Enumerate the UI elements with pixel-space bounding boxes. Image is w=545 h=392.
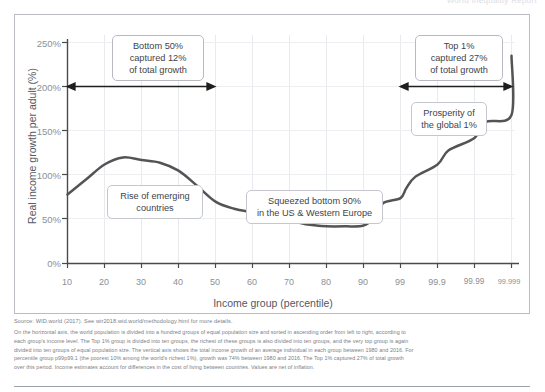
note-line-2: each group's income level. The Top 1% gr… <box>14 337 530 346</box>
note-line-1: On the horizontal axis, the world popula… <box>14 328 530 337</box>
emerging-line-1: Rise of emerging <box>114 190 196 202</box>
bottom-50-line-3: of total growth <box>119 64 197 76</box>
top-1-line-3: of total growth <box>422 64 496 76</box>
prosperity-line-1: Prosperity of <box>418 107 480 119</box>
squeezed-line-2: in the US & Western Europe <box>253 207 376 219</box>
chart-page: World Inequality Report Real income grow… <box>0 0 545 392</box>
source-line: Source: WID.world (2017). See wir2018.wi… <box>14 318 530 324</box>
bottom-50-line-2: captured 12% <box>119 52 197 64</box>
squeezed-line-1: Squeezed bottom 90% <box>253 195 376 207</box>
chart-frame: Real income growth per adult (%) Income … <box>14 14 530 314</box>
bottom-rule <box>14 386 530 387</box>
bottom-50-line-1: Bottom 50% <box>119 40 197 52</box>
note-block: On the horizontal axis, the world popula… <box>14 328 530 372</box>
bottom-50-callout: Bottom 50% captured 12% of total growth <box>112 35 204 81</box>
chart-footer: Source: WID.world (2017). See wir2018.wi… <box>14 318 530 372</box>
header-strip: World Inequality Report <box>0 0 545 14</box>
emerging-line-2: countries <box>114 202 196 214</box>
prosperity-callout: Prosperity of the global 1% <box>411 102 487 136</box>
squeezed-callout: Squeezed bottom 90% in the US & Western … <box>246 190 383 224</box>
top-1-line-1: Top 1% <box>422 40 496 52</box>
note-line-5: over this period. Income estimates accou… <box>14 363 530 372</box>
note-line-3: divided into ten groups of equal populat… <box>14 346 530 355</box>
top-1-callout: Top 1% captured 27% of total growth <box>415 35 503 81</box>
rise-emerging-callout: Rise of emerging countries <box>107 185 203 219</box>
cut-off-title: World Inequality Report <box>447 0 537 5</box>
top-1-line-2: captured 27% <box>422 52 496 64</box>
range-arrow-top-1 <box>400 83 512 90</box>
prosperity-line-2: the global 1% <box>418 119 480 131</box>
note-line-4: percentile group p99p99.1 (the poorest 1… <box>14 354 530 363</box>
chart-area: Real income growth per adult (%) Income … <box>15 15 531 315</box>
